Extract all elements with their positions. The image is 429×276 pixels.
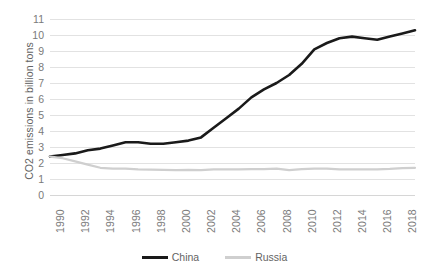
y-tick-label: 7 xyxy=(38,78,44,88)
y-tick-label: 2 xyxy=(38,158,44,168)
x-tick-label: 2008 xyxy=(281,209,293,233)
legend-swatch-icon xyxy=(225,256,251,259)
x-tick-label: 2002 xyxy=(205,209,217,233)
y-tick-label: 8 xyxy=(38,62,44,72)
y-tick-label: 3 xyxy=(38,142,44,152)
series-line-russia xyxy=(50,157,415,171)
series-lines xyxy=(50,19,415,195)
legend-item-china[interactable]: China xyxy=(142,252,199,263)
x-tick-label: 2000 xyxy=(180,209,192,233)
y-axis-tick-labels: 01234567891011 xyxy=(0,0,50,276)
x-tick-label: 2016 xyxy=(381,209,393,233)
x-tick-label: 1996 xyxy=(130,209,142,233)
y-tick-label: 10 xyxy=(32,30,44,40)
x-tick-label: 2010 xyxy=(306,209,318,233)
chart-legend: ChinaRussia xyxy=(0,252,429,263)
x-tick-label: 2014 xyxy=(356,209,368,233)
x-tick-label: 2004 xyxy=(230,209,242,233)
co2-emissions-line-chart: CO2 emissions in billion tons 0123456789… xyxy=(0,0,429,276)
legend-swatch-icon xyxy=(142,256,168,259)
legend-item-russia[interactable]: Russia xyxy=(225,252,287,263)
x-tick-label: 1992 xyxy=(79,209,91,233)
y-tick-label: 9 xyxy=(38,46,44,56)
x-tick-label: 1994 xyxy=(104,209,116,233)
x-tick-label: 2012 xyxy=(331,209,343,233)
plot-area xyxy=(50,19,415,195)
legend-label: China xyxy=(172,252,199,263)
x-axis-tick-labels: 1990199219941996199820002002200420062008… xyxy=(50,195,415,245)
legend-label: Russia xyxy=(255,252,287,263)
series-line-china xyxy=(50,30,415,156)
y-tick-label: 4 xyxy=(38,126,44,136)
x-tick-label: 2018 xyxy=(406,209,418,233)
x-tick-label: 1998 xyxy=(155,209,167,233)
x-tick-label: 1990 xyxy=(54,209,66,233)
x-tick-label: 2006 xyxy=(255,209,267,233)
y-tick-label: 5 xyxy=(38,110,44,120)
y-tick-label: 6 xyxy=(38,94,44,104)
y-tick-label: 0 xyxy=(38,190,44,200)
y-tick-label: 1 xyxy=(38,174,44,184)
y-tick-label: 11 xyxy=(33,14,44,24)
